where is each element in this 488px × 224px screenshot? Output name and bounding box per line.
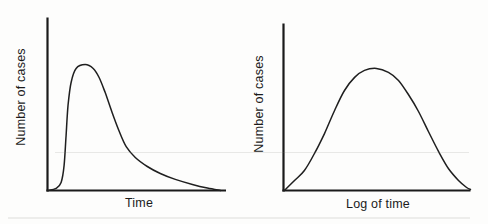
log-time-chart-ylabel: Number of cases: [253, 55, 266, 152]
log-time-chart-plot: [0, 0, 488, 224]
time-chart-plot: [0, 0, 488, 224]
time-chart-xlabel: Time: [125, 197, 153, 210]
log-time-chart-xlabel: Log of time: [346, 198, 410, 211]
figure-canvas: Number of cases Time Number of cases Log…: [0, 0, 488, 224]
time-chart-ylabel: Number of cases: [15, 48, 28, 145]
scan-artifact-line: [8, 217, 470, 219]
